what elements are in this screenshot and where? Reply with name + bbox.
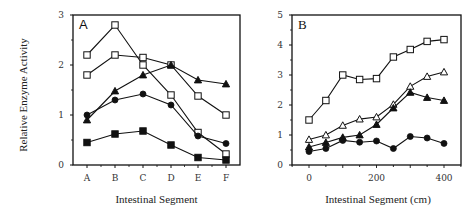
filled-circle-marker-icon (374, 138, 380, 144)
open-square-marker-icon (112, 22, 118, 28)
open-square-marker-icon (407, 46, 413, 52)
y-tick-label: 2 (58, 60, 64, 70)
filled-square-marker-icon (223, 157, 229, 163)
panel-a-chart: 0123 ABCDEF A Intestinal Segment (58, 10, 240, 205)
panel-b-x-axis-title: Intestinal Segment (cm) (325, 193, 431, 206)
open-square-marker-icon (223, 112, 229, 118)
filled-triangle-marker-icon (111, 87, 118, 93)
y-tick-label: 3 (58, 10, 64, 20)
filled-circle-marker-icon (390, 146, 396, 152)
filled-circle-marker-icon (357, 139, 363, 145)
open-square-marker-icon (441, 36, 447, 42)
panel-b-label: B (298, 17, 307, 32)
open-triangle-marker-icon (373, 113, 380, 119)
filled-circle-marker-icon (323, 146, 329, 152)
x-tick-label: E (195, 173, 202, 183)
filled-circle-marker-icon (407, 134, 413, 140)
x-tick-label: D (167, 173, 174, 183)
panel-a-x-axis: ABCDEF (83, 165, 229, 183)
open-triangle-marker-icon (322, 131, 329, 137)
panel-b-x-axis: 0200400 (292, 165, 461, 183)
figure-canvas: Relative Enzyme Activity 0123 ABCDEF A I… (0, 0, 473, 214)
panel-a-frame (73, 15, 240, 165)
y-tick-label: 0 (58, 160, 64, 170)
x-tick-label: A (83, 173, 91, 183)
open-square-marker-icon (373, 75, 379, 81)
filled-circle-marker-icon (112, 97, 118, 103)
open-square-marker-icon (140, 54, 146, 60)
y-axis-title: Relative Enzyme Activity (17, 38, 29, 152)
x-tick-label: F (223, 173, 229, 183)
open-square-marker-icon (195, 93, 201, 99)
open-square-marker-icon (112, 52, 118, 58)
filled-square-marker-icon (112, 131, 118, 137)
filled-circle-marker-icon (168, 102, 174, 108)
filled-circle-marker-icon (195, 133, 201, 139)
open-square-marker-icon (356, 76, 362, 82)
filled-circle-marker-icon (306, 149, 312, 155)
panel-b-chart: 012345 0200400 B Intestinal Segment (cm) (277, 10, 461, 206)
filled-square-marker-icon (84, 139, 90, 145)
open-square-marker-icon (84, 52, 90, 58)
filled-circle-marker-icon (140, 91, 146, 97)
y-tick-label: 4 (277, 40, 283, 50)
filled-square-marker-icon (140, 128, 146, 134)
panel-a-y-axis: 0123 (58, 10, 73, 170)
filled-circle-marker-icon (223, 141, 229, 147)
x-tick-label: 400 (435, 173, 452, 183)
open-triangle-marker-icon (440, 68, 447, 74)
filled-triangle-marker-icon (356, 131, 363, 137)
y-tick-label: 0 (277, 160, 283, 170)
open-square-marker-icon (223, 151, 229, 157)
panel-a-label: A (79, 17, 88, 32)
panel-a-series (83, 22, 229, 163)
series-open-square-2 (84, 52, 229, 118)
filled-circle-marker-icon (424, 135, 430, 141)
filled-square-marker-icon (168, 142, 174, 148)
x-tick-label: B (112, 173, 119, 183)
filled-square-marker-icon (195, 154, 201, 160)
open-square-marker-icon (140, 62, 146, 68)
y-tick-label: 1 (58, 110, 64, 120)
open-square-marker-icon (84, 72, 90, 78)
filled-triangle-marker-icon (194, 76, 201, 82)
open-square-marker-icon (168, 92, 174, 98)
x-tick-label: C (140, 173, 147, 183)
filled-circle-marker-icon (84, 112, 90, 118)
series-filled-triangle (83, 61, 229, 122)
open-square-marker-icon (340, 72, 346, 78)
x-tick-label: 200 (368, 173, 385, 183)
y-tick-label: 2 (277, 100, 283, 110)
open-square-marker-icon (306, 117, 312, 123)
y-tick-label: 3 (277, 70, 283, 80)
x-tick-label: 0 (306, 173, 312, 183)
panel-b-series (305, 36, 447, 154)
open-square-marker-icon (424, 38, 430, 44)
panel-b-y-axis: 012345 (277, 10, 292, 170)
panel-a-x-axis-title: Intestinal Segment (115, 193, 197, 205)
open-square-marker-icon (390, 54, 396, 60)
open-square-marker-icon (323, 97, 329, 103)
filled-circle-marker-icon (441, 140, 447, 146)
series-filled-square (84, 128, 229, 163)
y-tick-label: 5 (277, 10, 283, 20)
y-tick-label: 1 (277, 130, 283, 140)
filled-circle-marker-icon (340, 137, 346, 143)
